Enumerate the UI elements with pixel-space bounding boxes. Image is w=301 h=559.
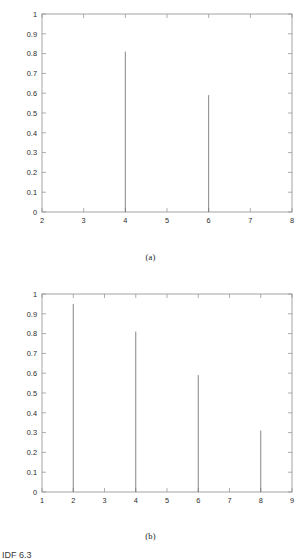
x-tick-label: 1 <box>40 496 44 505</box>
y-tick-label: 0 <box>33 488 37 497</box>
x-tick-label: 7 <box>227 496 231 505</box>
page-footer-partial-text: IDF 6.3 <box>2 550 32 559</box>
stem-plot-a: 234567800.10.20.30.40.50.60.70.80.91 <box>0 0 301 232</box>
y-tick-label: 0.7 <box>27 69 37 78</box>
y-tick-label: 0.6 <box>27 369 37 378</box>
y-tick-label: 0.8 <box>27 49 37 58</box>
y-tick-label: 0.6 <box>27 89 37 98</box>
y-tick-label: 0.3 <box>27 428 37 437</box>
stem-plot-b: 12345678900.10.20.30.40.50.60.70.80.91 <box>0 280 301 512</box>
y-tick-label: 0.8 <box>27 329 37 338</box>
y-tick-label: 0.9 <box>27 30 37 39</box>
x-tick-label: 5 <box>165 496 169 505</box>
x-tick-label: 8 <box>290 216 294 225</box>
y-tick-label: 1 <box>33 10 37 19</box>
x-tick-label: 5 <box>165 216 169 225</box>
y-tick-label: 0.2 <box>27 168 37 177</box>
x-tick-label: 2 <box>71 496 75 505</box>
y-tick-label: 0.7 <box>27 349 37 358</box>
x-tick-label: 3 <box>102 496 106 505</box>
plot-frame <box>42 14 292 212</box>
y-tick-label: 0.1 <box>27 468 37 477</box>
y-tick-label: 0.1 <box>27 188 37 197</box>
y-tick-label: 1 <box>33 290 37 299</box>
x-tick-label: 8 <box>259 496 263 505</box>
x-tick-label: 9 <box>290 496 294 505</box>
x-tick-label: 7 <box>248 216 252 225</box>
stem-plot-a-wrapper: 234567800.10.20.30.40.50.60.70.80.91 <box>0 0 301 232</box>
x-tick-label: 2 <box>40 216 44 225</box>
figure-b-caption: (b) <box>0 531 301 541</box>
y-tick-label: 0.4 <box>27 129 37 138</box>
x-tick-label: 6 <box>207 216 211 225</box>
plot-frame <box>42 294 292 492</box>
y-tick-label: 0.9 <box>27 310 37 319</box>
stem-plot-b-wrapper: 12345678900.10.20.30.40.50.60.70.80.91 <box>0 280 301 512</box>
y-tick-label: 0.3 <box>27 148 37 157</box>
y-tick-label: 0.2 <box>27 448 37 457</box>
x-tick-label: 6 <box>196 496 200 505</box>
y-tick-label: 0 <box>33 208 37 217</box>
y-tick-label: 0.4 <box>27 409 37 418</box>
x-tick-label: 3 <box>82 216 86 225</box>
y-tick-label: 0.5 <box>27 389 37 398</box>
figure-b: 12345678900.10.20.30.40.50.60.70.80.91 (… <box>0 280 301 540</box>
x-tick-label: 4 <box>123 216 127 225</box>
figure-a-caption: (a) <box>0 252 301 262</box>
figure-a: 234567800.10.20.30.40.50.60.70.80.91 (a) <box>0 0 301 280</box>
y-tick-label: 0.5 <box>27 109 37 118</box>
x-tick-label: 4 <box>134 496 138 505</box>
